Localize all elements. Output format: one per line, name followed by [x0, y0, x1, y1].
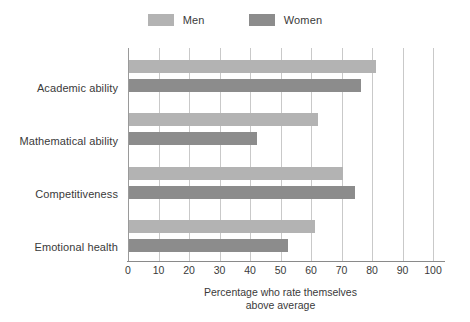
- bar-men-0: [129, 60, 376, 73]
- x-axis-title-line1: Percentage who rate themselves: [128, 286, 433, 299]
- category-label-3: Emotional health: [34, 241, 118, 253]
- category-axis-labels: Academic ability Mathematical ability Co…: [0, 48, 128, 261]
- x-tick-label-40: 40: [244, 264, 256, 276]
- bar-group-0: [129, 48, 433, 101]
- x-tick-label-20: 20: [183, 264, 195, 276]
- bar-chart: Men Women Academic ability Mathematical …: [0, 0, 470, 322]
- x-axis-title-line2: above average: [128, 299, 433, 312]
- legend-label-women: Women: [284, 14, 323, 26]
- legend-swatch-icon-women: [249, 14, 275, 26]
- bar-men-3: [129, 220, 315, 233]
- x-tick-label-80: 80: [366, 264, 378, 276]
- plot-area: [128, 48, 433, 261]
- legend-label-men: Men: [183, 14, 205, 26]
- x-tick-label-60: 60: [305, 264, 317, 276]
- bar-group-2: [129, 155, 433, 208]
- x-axis-title: Percentage who rate themselves above ave…: [128, 286, 433, 312]
- bar-men-1: [129, 113, 318, 126]
- category-label-2: Competitiveness: [35, 188, 118, 200]
- gridline-100: [433, 48, 434, 261]
- bar-men-2: [129, 167, 343, 180]
- legend-swatch-icon-men: [148, 14, 174, 26]
- bar-women-2: [129, 186, 355, 199]
- x-tick-label-70: 70: [336, 264, 348, 276]
- x-tick-label-0: 0: [125, 264, 131, 276]
- bar-women-0: [129, 79, 361, 92]
- x-tick-label-50: 50: [275, 264, 287, 276]
- x-axis-tick-labels: 0102030405060708090100: [128, 264, 433, 280]
- bar-group-1: [129, 101, 433, 154]
- x-axis-line: [127, 261, 445, 262]
- category-label-0: Academic ability: [37, 82, 118, 94]
- x-tick-label-90: 90: [397, 264, 409, 276]
- bar-group-3: [129, 208, 433, 261]
- category-label-1: Mathematical ability: [19, 135, 118, 147]
- legend-item-women: Women: [249, 14, 323, 26]
- x-tick-label-10: 10: [153, 264, 165, 276]
- x-tick-label-100: 100: [424, 264, 442, 276]
- x-tick-label-30: 30: [214, 264, 226, 276]
- bar-women-1: [129, 132, 257, 145]
- chart-legend: Men Women: [0, 14, 470, 26]
- legend-item-men: Men: [148, 14, 205, 26]
- bar-women-3: [129, 239, 288, 252]
